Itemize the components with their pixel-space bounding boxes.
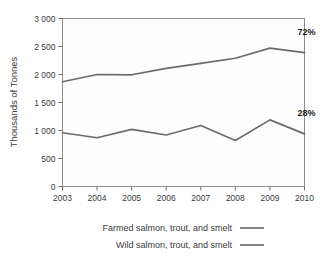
x-tick-label: 2009	[260, 193, 279, 203]
x-tick-label: 2003	[53, 193, 72, 203]
x-tick-label: 2010	[295, 193, 314, 203]
x-tick-label: 2007	[191, 193, 210, 203]
line-chart: Thousands of Tonnes 05001 0001 5002 0002…	[0, 0, 325, 262]
y-tick-label: 2 500	[34, 42, 56, 52]
annotation-28pct: 28%	[297, 108, 315, 118]
legend-label-1: Farmed salmon, trout, and smelt	[102, 223, 232, 233]
x-tick-label: 2004	[88, 193, 107, 203]
y-axis-ticks: 05001 0001 5002 0002 5003 000	[34, 14, 62, 192]
chart-legend: Farmed salmon, trout, and smeltWild salm…	[102, 223, 264, 250]
chart-figure: Thousands of Tonnes 05001 0001 5002 0002…	[0, 0, 325, 262]
x-tick-label: 2006	[157, 193, 176, 203]
y-tick-label: 0	[51, 182, 56, 192]
x-axis-ticks: 20032004200520062007200820092010	[53, 187, 314, 203]
plot-area	[63, 19, 305, 187]
x-tick-label: 2008	[226, 193, 245, 203]
y-axis-title: Thousands of Tonnes	[8, 56, 19, 147]
y-tick-label: 1 500	[34, 98, 56, 108]
y-tick-label: 3 000	[34, 14, 56, 24]
legend-label-2: Wild salmon, trout, and smelt	[116, 240, 233, 250]
y-tick-label: 2 000	[34, 70, 56, 80]
annotation-72pct: 72%	[297, 27, 315, 37]
y-tick-label: 1 000	[34, 126, 56, 136]
y-tick-label: 500	[41, 154, 55, 164]
x-tick-label: 2005	[122, 193, 141, 203]
